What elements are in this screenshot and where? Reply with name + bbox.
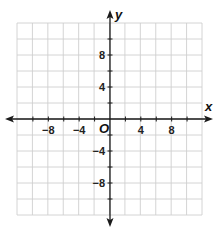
y-axis-label: y bbox=[114, 7, 123, 22]
y-tick-label: 8 bbox=[99, 49, 105, 61]
y-tick-label: 4 bbox=[99, 81, 106, 93]
x-tick-label: 4 bbox=[138, 124, 145, 136]
x-tick-label: −4 bbox=[73, 124, 86, 136]
axes bbox=[5, 10, 213, 227]
x-tick-label: 8 bbox=[169, 124, 175, 136]
y-tick-label: −8 bbox=[92, 177, 105, 189]
x-tick-label: −8 bbox=[42, 124, 55, 136]
y-tick-label: −4 bbox=[92, 145, 105, 157]
origin-label: O bbox=[99, 121, 109, 136]
coordinate-plane: −8−44884−4−8 x y O bbox=[0, 0, 214, 236]
x-axis-label: x bbox=[204, 99, 213, 114]
